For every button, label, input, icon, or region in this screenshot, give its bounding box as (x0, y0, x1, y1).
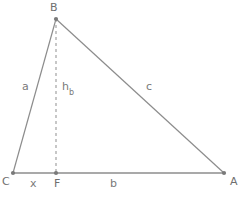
segment-label-b: b (110, 178, 117, 189)
vertex-label-B: B (50, 2, 58, 13)
triangle-diagram: B C A F a hb c x b (0, 0, 241, 207)
vertex-dot-C (11, 171, 15, 175)
side-label-a: a (22, 81, 29, 92)
vertex-dot-B (54, 17, 58, 21)
vertex-dot-F (54, 171, 58, 175)
side-label-hb: hb (62, 81, 74, 96)
segment-label-x: x (30, 178, 37, 189)
side-segment-a (13, 19, 56, 173)
vertex-label-C: C (2, 176, 10, 187)
side-label-c: c (146, 81, 152, 92)
vertex-label-F: F (54, 178, 60, 189)
side-label-hb-subscript: b (69, 88, 74, 97)
triangle-diagram-canvas (0, 0, 241, 207)
vertex-dot-A (222, 171, 226, 175)
vertex-label-A: A (230, 176, 238, 187)
side-label-hb-base: h (62, 80, 69, 93)
side-segment-c (56, 19, 224, 173)
